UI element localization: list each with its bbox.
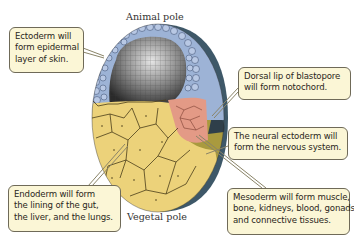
- callout-line: will form notochord.: [244, 82, 345, 93]
- vegetal-pole-label: Vegetal pole: [127, 211, 187, 222]
- callout-line: Dorsal lip of blastopore: [244, 71, 345, 82]
- callout-ectoderm: Ectoderm will form epidermal layer of sk…: [9, 27, 84, 73]
- callout-neural-ectoderm: The neural ectoderm will form the nervou…: [228, 127, 348, 160]
- callout-endoderm: Endoderm will form the lining of the gut…: [8, 185, 121, 232]
- callout-line: form epidermal: [15, 42, 78, 53]
- callout-line: bone, kidneys, blood, gonads,: [233, 203, 344, 214]
- callout-line: the liver, and the lungs.: [14, 212, 115, 223]
- callout-line: form the nervous system.: [234, 142, 342, 153]
- callout-line: the lining of the gut,: [14, 200, 115, 211]
- callout-mesoderm: Mesoderm will form muscle, bone, kidneys…: [227, 188, 350, 235]
- animal-pole-label: Animal pole: [126, 11, 184, 22]
- callout-line: and connective tissues.: [233, 215, 344, 226]
- callout-dorsal-lip: Dorsal lip of blastopore will form notoc…: [238, 67, 351, 100]
- callout-line: layer of skin.: [15, 54, 78, 65]
- callout-line: The neural ectoderm will: [234, 131, 342, 142]
- callout-line: Mesoderm will form muscle,: [233, 192, 344, 203]
- callout-line: Ectoderm will: [15, 31, 78, 42]
- callout-line: Endoderm will form: [14, 189, 115, 200]
